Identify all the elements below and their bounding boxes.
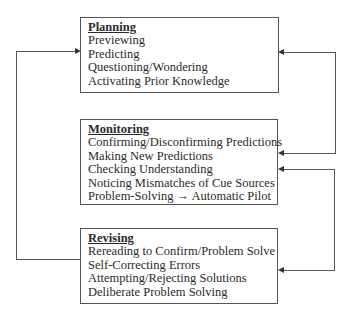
- revising-item: Self-Correcting Errors: [88, 259, 277, 272]
- revising-title: Revising: [88, 232, 277, 245]
- connector-right-lower-top-horizontal: [283, 169, 335, 170]
- planning-item: Questioning/Wondering: [88, 61, 278, 74]
- revising-item: Rereading to Confirm/Problem Solve: [88, 245, 277, 258]
- monitoring-item: Checking Understanding: [88, 163, 277, 176]
- revising-item: Attempting/Rejecting Solutions: [88, 272, 277, 285]
- monitoring-item: Making New Predictions: [88, 150, 277, 163]
- connector-left-bottom-horizontal: [16, 259, 80, 260]
- arrow-into-monitoring-upper-icon: [278, 150, 284, 156]
- connector-left-vertical: [16, 51, 17, 260]
- planning-title: Planning: [88, 21, 278, 34]
- revising-box: Revising Rereading to Confirm/Problem So…: [80, 228, 278, 304]
- monitoring-title: Monitoring: [88, 123, 277, 136]
- arrow-into-monitoring-lower-icon: [278, 166, 284, 172]
- planning-item: Predicting: [88, 48, 278, 61]
- monitoring-item: Confirming/Disconfirming Predictions: [88, 136, 277, 149]
- connector-right-upper-top-horizontal: [283, 52, 336, 53]
- connector-right-upper-vertical: [335, 52, 336, 154]
- connector-right-lower-bottom-horizontal: [283, 270, 335, 271]
- planning-item: Previewing: [88, 34, 278, 47]
- monitoring-box: Monitoring Confirming/Disconfirming Pred…: [80, 119, 278, 205]
- revising-item: Deliberate Problem Solving: [88, 286, 277, 299]
- arrow-into-revising-icon: [278, 267, 284, 273]
- monitoring-item: Problem-Solving → Automatic Pilot: [88, 190, 277, 203]
- connector-left-top-horizontal: [16, 51, 76, 52]
- connector-right-upper-bottom-horizontal: [283, 153, 336, 154]
- monitoring-item: Noticing Mismatches of Cue Sources: [88, 177, 277, 190]
- planning-item: Activating Prior Knowledge: [88, 75, 278, 88]
- planning-box: Planning Previewing Predicting Questioni…: [80, 17, 279, 93]
- connector-right-lower-vertical: [334, 169, 335, 271]
